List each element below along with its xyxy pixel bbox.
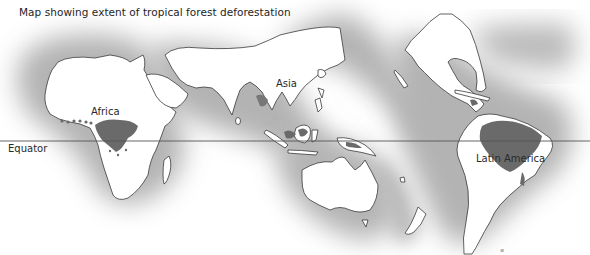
asia-label: Asia: [276, 78, 297, 89]
svg-text:≋: ≋: [500, 247, 504, 253]
latin-america-label: Latin America: [476, 153, 545, 164]
world-map: ≋: [0, 0, 590, 255]
africa-label: Africa: [91, 106, 120, 117]
equator-label: Equator: [8, 143, 47, 154]
